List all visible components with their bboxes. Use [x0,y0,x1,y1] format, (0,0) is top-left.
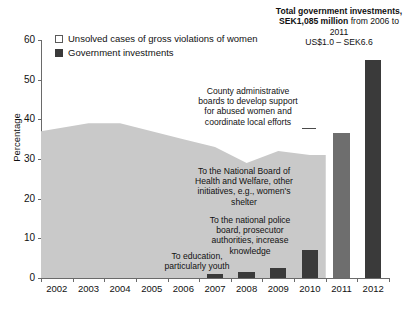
x-tick [389,278,390,282]
y-tick-label: 50 [24,75,35,85]
x-tick [168,278,169,282]
x-tick-label: 2009 [268,284,289,294]
bar-2011 [333,133,349,278]
bar-2012 [365,60,381,278]
bar-2009 [270,268,286,278]
x-tick-label: 2011 [331,284,351,294]
x-axis-line [41,278,389,279]
annotation-health-welfare: To the National Board of Health and Welf… [189,166,299,207]
x-tick-label: 2007 [204,284,225,294]
x-tick-label: 2006 [173,284,194,294]
x-tick [136,278,137,282]
x-tick-label: 2012 [363,284,384,294]
x-tick-label: 2004 [110,284,131,294]
x-tick-label: 2005 [141,284,162,294]
x-tick-label: 2003 [78,284,99,294]
x-tick [41,278,42,282]
x-tick-label: 2008 [236,284,257,294]
y-tick-label: 30 [24,154,35,164]
annotation-county-boards: County administrative boards to develop … [196,86,300,127]
x-tick [231,278,232,282]
x-tick-label: 2010 [299,284,320,294]
annotation-education: To education, particularly youth [163,251,231,271]
y-tick-label: 40 [24,114,35,124]
bar-2008 [238,272,254,278]
x-tick [199,278,200,282]
x-tick-label: 2002 [46,284,67,294]
y-tick-label: 10 [24,233,35,243]
bar-2010 [302,250,318,278]
x-tick [262,278,263,282]
annotation-leader-county-boards [302,128,316,129]
x-tick [326,278,327,282]
y-tick-label: 60 [24,35,35,45]
annotation-police-board: To the national police board, prosecutor… [202,215,298,256]
chart-root: Percentage Total government investments,… [0,0,415,327]
x-tick [73,278,74,282]
y-axis-title: Percentage [11,96,22,180]
y-tick-label: 20 [24,194,35,204]
x-tick [104,278,105,282]
bar-2007 [207,274,223,278]
y-tick-label: 0 [29,273,35,283]
x-tick [357,278,358,282]
x-tick [294,278,295,282]
